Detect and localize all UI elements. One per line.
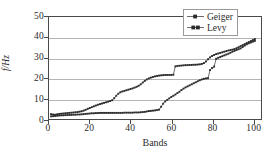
series-geiger [50,38,256,116]
legend-label: Levy [207,23,227,33]
y-tick-mark [44,16,48,17]
x-tick-label: 80 [193,124,233,134]
x-tick-label: 100 [234,124,274,134]
x-tick-label: 20 [69,124,109,134]
y-tick-label: 10 [4,95,44,105]
y-tick-label: 30 [4,53,44,63]
y-tick-label: 40 [4,32,44,42]
x-axis-title: Bands [48,138,262,148]
x-tick-label: 0 [28,124,68,134]
y-tick-label: 20 [4,74,44,84]
y-tick-mark [44,78,48,79]
y-tick-mark [44,37,48,38]
legend-item-levy[interactable]: Levy [187,22,233,33]
y-tick-label: 50 [4,12,44,22]
legend-item-geiger[interactable]: Geiger [187,11,233,22]
y-tick-mark [44,58,48,59]
legend-marker-icon [187,23,204,32]
legend-label: Geiger [207,12,233,22]
legend: Geiger Levy [183,9,238,36]
legend-marker-icon [187,12,204,21]
x-tick-label: 40 [110,124,150,134]
x-tick-label: 60 [152,124,192,134]
chart-figure: f/Hz 0 10 20 30 40 50 0 20 40 60 80 100 … [0,0,280,158]
y-tick-mark [44,99,48,100]
